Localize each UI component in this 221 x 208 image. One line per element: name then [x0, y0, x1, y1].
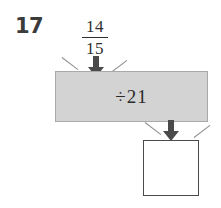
input-fraction: 14 15 [74, 17, 116, 58]
problem-number: 17 [15, 14, 43, 38]
input-fraction-numerator: 14 [74, 17, 116, 36]
output-funnel-notch-left-icon [145, 122, 162, 135]
machine-operation-label: ÷21 [56, 86, 207, 108]
funnel-notch-left-icon [62, 57, 79, 70]
output-funnel-notch-right-icon [194, 125, 211, 138]
answer-box[interactable] [143, 140, 199, 196]
function-machine-problem: 17 14 15 ÷21 [0, 0, 221, 208]
down-arrow-icon-output [162, 120, 180, 142]
operation-machine-box: ÷21 [55, 71, 208, 122]
answer-box-value[interactable] [144, 141, 198, 195]
fraction-bar-icon [82, 37, 108, 38]
